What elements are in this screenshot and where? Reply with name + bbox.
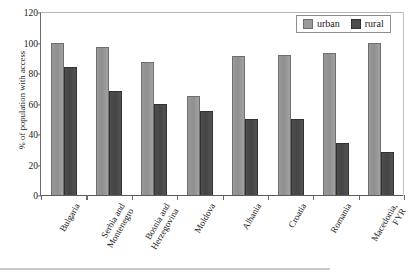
bar-group [96, 47, 122, 195]
bar-urban [96, 47, 109, 195]
legend-item-rural: rural [351, 18, 384, 29]
x-label-anchor: Croatia [300, 202, 301, 203]
bar-urban [368, 43, 381, 196]
x-tick-label: Macedonia, FYR [370, 202, 408, 248]
x-label-anchor: Albania [254, 202, 255, 203]
legend-swatch-urban-icon [303, 19, 313, 29]
x-tick-mark [177, 195, 178, 200]
y-tick-mark [37, 12, 42, 13]
x-tick-label: Romania [330, 202, 355, 235]
y-tick-mark [37, 104, 42, 105]
bar-rural [245, 119, 258, 195]
legend-swatch-rural-icon [351, 19, 361, 29]
x-label-anchor: Moldova [209, 202, 210, 203]
chart-legend: urban rural [296, 15, 391, 33]
x-tick-label: Moldova [194, 202, 219, 235]
legend-label-urban: urban [317, 18, 340, 29]
x-label-anchor: Romania [345, 202, 346, 203]
bar-urban [187, 96, 200, 195]
y-tick-mark [37, 165, 42, 166]
x-label-anchor: Macedonia, FYR [390, 202, 391, 203]
bar-rural [291, 119, 304, 195]
bar-urban [141, 62, 154, 195]
plot-area: 020406080100120 [40, 13, 403, 196]
bar-urban [323, 53, 336, 195]
bar-rural [109, 91, 122, 195]
x-tick-mark [223, 195, 224, 200]
bar-group [51, 43, 77, 196]
legend-label-rural: rural [365, 18, 384, 29]
bar-group [278, 55, 304, 195]
bar-urban [51, 43, 64, 196]
x-tick-mark [359, 195, 360, 200]
bar-rural [336, 143, 349, 195]
bar-group [368, 43, 394, 196]
bottom-edge-artifact [0, 268, 330, 270]
bar-group [141, 62, 167, 195]
plot-right-rule [403, 12, 404, 196]
x-tick-label: Croatia [287, 202, 309, 230]
bar-group [323, 53, 349, 195]
bar-urban [232, 56, 245, 195]
x-tick-mark [268, 195, 269, 200]
y-tick-mark [37, 73, 42, 74]
x-tick-mark [132, 195, 133, 200]
bar-rural [64, 67, 77, 195]
x-tick-label: Albania [241, 202, 264, 231]
x-label-anchor: Bulgaria [73, 202, 74, 203]
y-tick-mark [37, 134, 42, 135]
x-tick-label: Bosnia and Herzegovina [141, 202, 181, 251]
legend-item-urban: urban [303, 18, 340, 29]
x-label-anchor: Serbia and Montenegro [118, 202, 119, 203]
x-label-anchor: Bosnia and Herzegovina [163, 202, 164, 203]
bar-rural [200, 111, 213, 195]
bar-chart: % of population with access 020406080100… [0, 0, 410, 274]
bar-rural [154, 104, 167, 196]
x-tick-mark [41, 195, 42, 200]
bar-group [232, 56, 258, 195]
x-tick-mark [313, 195, 314, 200]
x-tick-label: Serbia and Montenegro [97, 202, 136, 250]
y-tick-mark [37, 43, 42, 44]
x-tick-label: Bulgaria [58, 202, 82, 234]
x-tick-mark [86, 195, 87, 200]
bar-urban [278, 55, 291, 195]
bar-rural [381, 152, 394, 195]
x-tick-mark [404, 195, 405, 200]
bar-group [187, 96, 213, 195]
